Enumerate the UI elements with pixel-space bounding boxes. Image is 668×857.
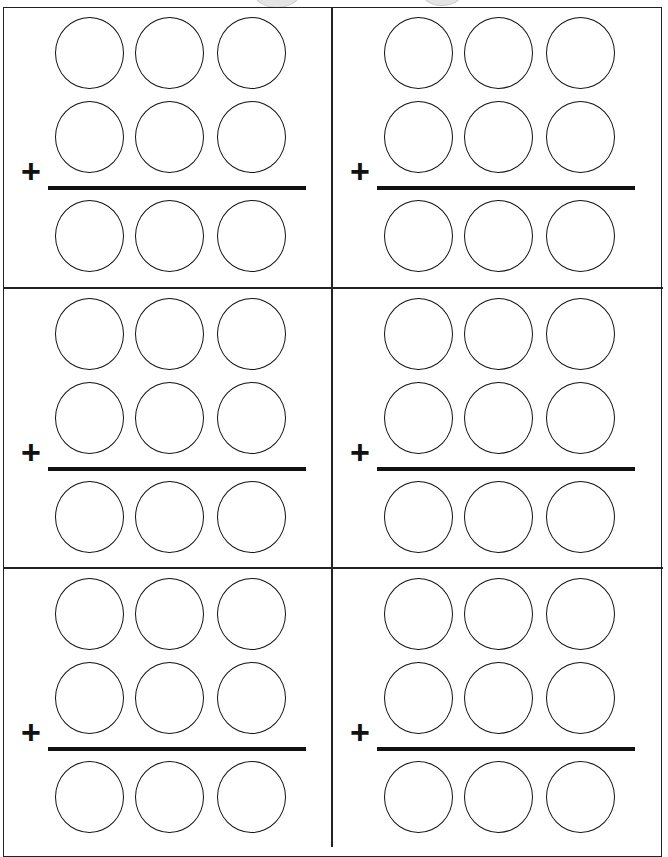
addend1-digit-box[interactable] <box>464 578 533 650</box>
addend1-digit-box[interactable] <box>135 298 204 370</box>
addend2-digit-box[interactable] <box>135 662 204 734</box>
sum-digit-box[interactable] <box>546 200 615 272</box>
addend2-digit-box[interactable] <box>55 101 124 173</box>
addend1-digit-box[interactable] <box>55 298 124 370</box>
addend2-digit-box[interactable] <box>217 101 286 173</box>
sum-digit-box[interactable] <box>135 481 204 553</box>
problem-middle-left: + <box>3 288 331 568</box>
addend2-digit-box[interactable] <box>546 101 615 173</box>
addend1-digit-box[interactable] <box>464 298 533 370</box>
sum-digit-box[interactable] <box>217 200 286 272</box>
addend1-digit-box[interactable] <box>135 17 204 89</box>
sum-digit-box[interactable] <box>217 481 286 553</box>
addend2-digit-box[interactable] <box>384 382 453 454</box>
addend2-digit-box[interactable] <box>217 382 286 454</box>
addend1-digit-box[interactable] <box>55 578 124 650</box>
punch-hole-right <box>422 0 462 6</box>
sum-digit-box[interactable] <box>55 200 124 272</box>
addend2-digit-box[interactable] <box>217 662 286 734</box>
addend2-digit-box[interactable] <box>546 382 615 454</box>
answer-line <box>48 467 306 471</box>
addend2-digit-box[interactable] <box>384 101 453 173</box>
addend1-digit-box[interactable] <box>217 17 286 89</box>
addend1-digit-box[interactable] <box>384 298 453 370</box>
sum-digit-box[interactable] <box>464 761 533 833</box>
answer-line <box>377 186 635 190</box>
plus-sign: + <box>350 154 370 188</box>
sum-digit-box[interactable] <box>546 481 615 553</box>
plus-sign: + <box>350 435 370 469</box>
addend2-digit-box[interactable] <box>464 662 533 734</box>
problem-bottom-left: + <box>3 568 331 848</box>
addend2-digit-box[interactable] <box>464 382 533 454</box>
addend2-digit-box[interactable] <box>384 662 453 734</box>
addend2-digit-box[interactable] <box>464 101 533 173</box>
addend1-digit-box[interactable] <box>217 298 286 370</box>
sum-digit-box[interactable] <box>384 200 453 272</box>
addend1-digit-box[interactable] <box>217 578 286 650</box>
sum-digit-box[interactable] <box>546 761 615 833</box>
addend2-digit-box[interactable] <box>55 382 124 454</box>
addend1-digit-box[interactable] <box>55 17 124 89</box>
addend1-digit-box[interactable] <box>384 578 453 650</box>
problem-middle-right: + <box>332 288 660 568</box>
answer-line <box>377 467 635 471</box>
answer-line <box>48 186 306 190</box>
sum-digit-box[interactable] <box>384 481 453 553</box>
sum-digit-box[interactable] <box>135 200 204 272</box>
addend1-digit-box[interactable] <box>546 578 615 650</box>
addend1-digit-box[interactable] <box>464 17 533 89</box>
addend1-digit-box[interactable] <box>546 17 615 89</box>
answer-line <box>48 747 306 751</box>
sum-digit-box[interactable] <box>384 761 453 833</box>
sum-digit-box[interactable] <box>55 761 124 833</box>
plus-sign: + <box>350 715 370 749</box>
problem-top-right: + <box>332 7 660 287</box>
addend2-digit-box[interactable] <box>546 662 615 734</box>
answer-line <box>377 747 635 751</box>
addend1-digit-box[interactable] <box>546 298 615 370</box>
plus-sign: + <box>21 715 41 749</box>
addend2-digit-box[interactable] <box>135 101 204 173</box>
problem-top-left: + <box>3 7 331 287</box>
plus-sign: + <box>21 435 41 469</box>
sum-digit-box[interactable] <box>55 481 124 553</box>
problem-bottom-right: + <box>332 568 660 848</box>
addend1-digit-box[interactable] <box>384 17 453 89</box>
sum-digit-box[interactable] <box>217 761 286 833</box>
sum-digit-box[interactable] <box>464 200 533 272</box>
addend2-digit-box[interactable] <box>55 662 124 734</box>
addend2-digit-box[interactable] <box>135 382 204 454</box>
addend1-digit-box[interactable] <box>135 578 204 650</box>
sum-digit-box[interactable] <box>464 481 533 553</box>
sum-digit-box[interactable] <box>135 761 204 833</box>
plus-sign: + <box>21 154 41 188</box>
